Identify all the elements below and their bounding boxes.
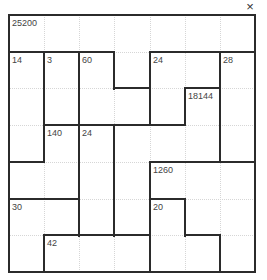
cage-border [43, 234, 80, 236]
cage-border [184, 161, 221, 163]
grid-cell[interactable] [79, 15, 114, 52]
cage-clue: 24 [82, 129, 92, 138]
grid-cell[interactable] [185, 52, 220, 89]
grid-cell[interactable] [79, 235, 114, 272]
grid-cell[interactable] [185, 199, 220, 236]
cage-border [219, 161, 256, 163]
cage-border [78, 271, 115, 273]
grid-cell[interactable] [9, 235, 44, 272]
grid-cell[interactable] [220, 235, 255, 272]
cage-clue: 18144 [188, 92, 213, 101]
grid-cell[interactable] [185, 162, 220, 199]
cage-clue: 28 [223, 56, 233, 65]
grid-cell[interactable] [220, 88, 255, 125]
cage-border [8, 124, 10, 163]
cage-border [184, 14, 221, 16]
cage-border [43, 87, 45, 126]
cage-border [184, 87, 186, 126]
cage-border [78, 234, 115, 236]
grid-cell[interactable] [114, 235, 149, 272]
cage-border [254, 51, 256, 90]
grid-cell[interactable] [79, 162, 114, 199]
grid-cell[interactable] [9, 162, 44, 199]
cage-border [219, 51, 221, 90]
cage-clue: 3 [47, 56, 52, 65]
cage-border [43, 124, 80, 126]
cage-clue: 20 [153, 203, 163, 212]
cage-border [43, 198, 80, 200]
cage-border [8, 198, 45, 200]
cage-border [43, 14, 80, 16]
cage-border [254, 161, 256, 200]
grid-cell[interactable] [150, 88, 185, 125]
cage-border [113, 161, 115, 200]
cage-border [8, 14, 45, 16]
close-icon[interactable]: × [243, 0, 257, 14]
grid-cell[interactable] [9, 88, 44, 125]
cage-border [149, 51, 186, 53]
cage-clue: 60 [82, 56, 92, 65]
cage-border [113, 234, 150, 236]
cage-border [8, 87, 10, 126]
grid-cell[interactable] [114, 15, 149, 52]
grid-cell[interactable] [185, 125, 220, 162]
grid-cell[interactable] [44, 199, 79, 236]
grid-cell[interactable] [114, 52, 149, 89]
cage-border [219, 124, 221, 163]
cage-border [8, 234, 10, 273]
cage-clue: 30 [12, 203, 22, 212]
grid-cell[interactable] [185, 235, 220, 272]
cage-border [149, 271, 186, 273]
cage-border [254, 87, 256, 126]
cage-border [43, 51, 80, 53]
cage-border [149, 198, 151, 237]
cage-border [8, 14, 10, 53]
cage-border [184, 271, 221, 273]
cage-border [78, 51, 80, 90]
grid-cell[interactable] [44, 162, 79, 199]
cage-border [219, 14, 256, 16]
cage-border [254, 124, 256, 163]
cage-border [8, 161, 10, 200]
grid-cell[interactable] [220, 162, 255, 199]
grid-cell[interactable] [150, 125, 185, 162]
cage-border [8, 161, 45, 163]
cage-border [149, 14, 186, 16]
cage-border [254, 198, 256, 237]
cage-border [219, 271, 256, 273]
grid-cell[interactable] [114, 162, 149, 199]
grid-cell[interactable] [44, 88, 79, 125]
cage-border [113, 198, 115, 237]
cage-clue: 1260 [153, 166, 173, 175]
grid-cell[interactable] [220, 15, 255, 52]
cage-clue: 24 [153, 56, 163, 65]
grid-cell[interactable] [220, 199, 255, 236]
cage-border [219, 234, 221, 273]
cage-border [78, 87, 80, 126]
cage-border [43, 234, 45, 273]
cage-border [149, 161, 151, 200]
grid-cell[interactable] [150, 15, 185, 52]
grid-cell[interactable] [185, 15, 220, 52]
cage-border [254, 234, 256, 273]
cage-border [184, 234, 221, 236]
grid-cell[interactable] [9, 125, 44, 162]
grid-cell[interactable] [114, 125, 149, 162]
grid-cell[interactable] [150, 235, 185, 272]
grid-cell[interactable] [44, 15, 79, 52]
grid-cell[interactable] [220, 125, 255, 162]
cage-border [184, 51, 221, 53]
grid-cell[interactable] [114, 88, 149, 125]
grid-cell[interactable] [79, 199, 114, 236]
cage-border [8, 51, 10, 90]
cage-border [43, 124, 45, 163]
cage-clue: 14 [12, 56, 22, 65]
cage-border [149, 234, 151, 273]
cage-border [78, 124, 115, 126]
grid-cell[interactable] [114, 199, 149, 236]
cage-clue: 42 [47, 239, 57, 248]
cage-border [113, 124, 150, 126]
grid-cell[interactable] [79, 88, 114, 125]
cage-clue: 140 [47, 129, 62, 138]
cage-border [113, 14, 150, 16]
